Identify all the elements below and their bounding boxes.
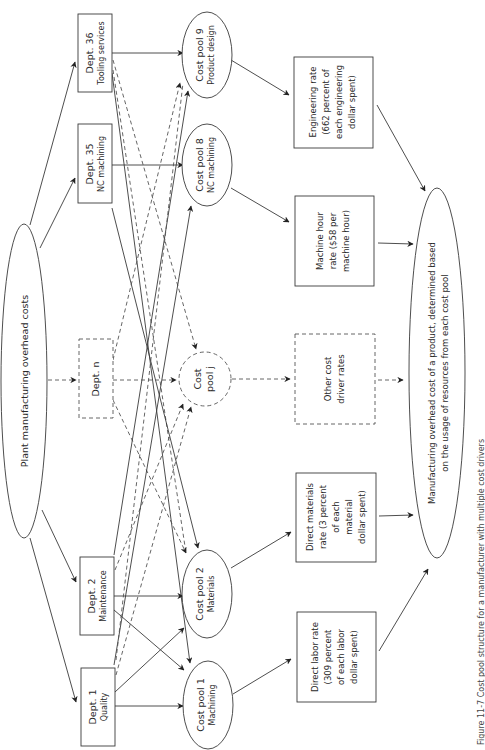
edge-dept1-pool2: [115, 628, 184, 692]
other-line-1: Other cost: [323, 356, 333, 401]
edge-pool2-materials: [231, 532, 291, 568]
edge-dept2-pool9: [114, 91, 188, 555]
edge-source-dept2: [42, 510, 76, 582]
engineering-line-3: each engineering: [334, 65, 344, 139]
edge-pool9-engineering: [231, 60, 289, 95]
figure-caption: Figure 11-7 Cost pool structure for a ma…: [477, 439, 485, 745]
labor-line-1: Direct labor rate: [310, 622, 320, 692]
labor-line-3: of each labor: [336, 629, 346, 685]
edge-dept36-pool2: [113, 70, 186, 553]
source-label: Plant manufacturing overhead costs: [19, 295, 30, 467]
edge-source-dept36: [30, 62, 75, 225]
result-line-1: Manufacturing overhead cost of a product…: [427, 242, 437, 504]
edge-pool8-machine: [231, 188, 289, 222]
deptn-title: Dept. n: [90, 362, 101, 397]
edge-dept36-pool1: [112, 73, 190, 663]
dept1-subtitle: Quality: [100, 692, 109, 721]
pool2-subtitle: Materials: [207, 576, 216, 613]
cost-pool-9: Cost pool 9 Product design: [182, 12, 232, 98]
pool1-subtitle: Machining: [208, 685, 217, 726]
cost-pool-diagram: Plant manufacturing overhead costs Dept.…: [0, 0, 485, 750]
labor-line-4: dollar spent): [349, 630, 359, 684]
department-dept36: Dept. 36 Tooling services: [78, 14, 112, 92]
engineering-line-1: Engineering rate: [308, 67, 318, 138]
dept2-subtitle: Maintenance: [99, 570, 108, 622]
pool2-title: Cost pool 2: [194, 567, 205, 621]
edge-dept1-pool9: [116, 83, 183, 660]
rate-machine-hour: Machine hour rate ($58 per machine hour): [295, 196, 374, 286]
cost-pool-8: Cost pool 8 NC machining: [182, 124, 232, 206]
department-dept2: Dept. 2 Maintenance: [80, 557, 114, 635]
edge-deptn-pool2: [113, 400, 186, 553]
department-dept35: Dept. 35 NC machining: [78, 124, 112, 203]
poolj-title: Cost: [192, 368, 203, 389]
pool8-title: Cost pool 8: [194, 138, 205, 192]
materials-line-1: Direct materials: [305, 482, 315, 551]
dept36-subtitle: Tooling services: [97, 21, 106, 85]
rate-direct-materials: Direct materials rate (3 percent of each…: [296, 473, 376, 562]
other-box: [295, 334, 375, 424]
other-line-2: driver rates: [336, 354, 346, 404]
cost-pool-2: Cost pool 2 Materials: [182, 550, 232, 638]
result-node: Manufacturing overhead cost of a product…: [409, 188, 465, 558]
dept1-title: Dept. 1: [87, 690, 98, 725]
labor-line-2: (309 percent: [323, 629, 333, 684]
machine-line-1: Machine hour: [315, 212, 325, 270]
pool9-title: Cost pool 9: [194, 28, 205, 82]
dept35-subtitle: NC machining: [97, 136, 106, 192]
edge-engineering-result: [377, 105, 425, 191]
engineering-line-4: dollar spent): [347, 75, 357, 129]
result-line-2: on the usage of resources from each cost…: [440, 274, 450, 471]
edge-dept36-poolj: [113, 60, 196, 349]
dept35-title: Dept. 35: [84, 143, 95, 184]
edge-machine-result: [378, 243, 413, 244]
materials-line-4: material: [344, 499, 354, 534]
materials-line-5: dollar spent): [357, 490, 367, 544]
materials-line-3: of each: [331, 501, 341, 532]
edge-deptn-pool9: [113, 83, 180, 360]
materials-line-2: rate (3 percent: [318, 484, 328, 549]
cost-pool-j: Cost pool j: [179, 352, 231, 406]
source-node: Plant manufacturing overhead costs: [1, 224, 47, 538]
department-dept1: Dept. 1 Quality: [81, 668, 115, 746]
machine-line-2: rate ($58 per: [328, 212, 338, 269]
dept36-title: Dept. 36: [84, 32, 95, 73]
department-deptn: Dept. n: [79, 339, 113, 418]
edge-materials-result: [379, 515, 413, 516]
engineering-line-2: (662 percent of: [321, 68, 331, 135]
edge-source-dept1: [30, 538, 76, 702]
cost-pool-1: Cost pool 1 Machining: [183, 661, 233, 749]
machine-line-3: machine hour): [341, 210, 351, 272]
rate-engineering: Engineering rate (662 percent of each en…: [294, 57, 373, 148]
rate-direct-labor: Direct labor rate (309 percent of each l…: [297, 612, 376, 702]
pool9-subtitle: Product design: [207, 25, 216, 84]
rate-other: Other cost driver rates: [295, 334, 375, 424]
dept2-title: Dept. 2: [86, 579, 97, 614]
edge-pool1-labor: [233, 659, 291, 694]
edge-source-dept35: [40, 178, 75, 248]
result-ellipse: [409, 188, 465, 558]
pool8-subtitle: NC machining: [207, 137, 216, 193]
poolj-subtitle: pool j: [204, 366, 215, 392]
pool1-title: Cost pool 1: [195, 678, 206, 732]
edge-labor-result: [379, 569, 428, 651]
